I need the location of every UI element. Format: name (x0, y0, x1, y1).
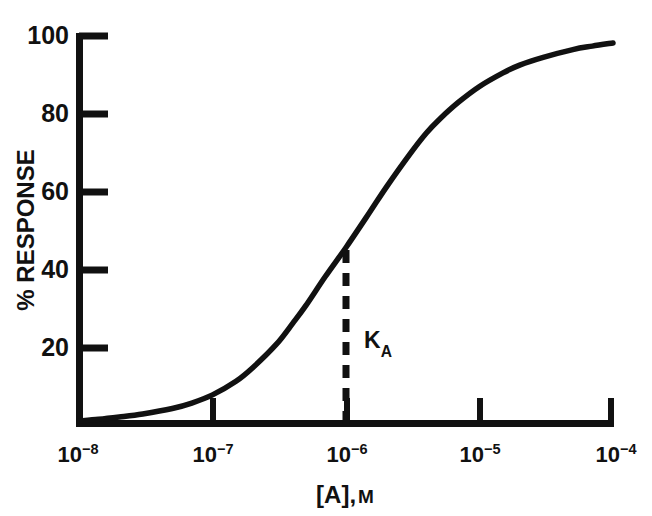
x-tick-label-1e-7-mantissa: 10 (192, 442, 216, 467)
dose-response-chart: KA 100 80 60 40 20 10−8 10−7 10−6 10−5 1… (0, 0, 652, 516)
x-axis-title-bracket-open: [ (316, 481, 324, 508)
x-tick-label-1e-5-exponent: −5 (484, 441, 501, 457)
x-axis-title-bracket-close: ] (341, 481, 349, 508)
x-tick-label-1e-8-exponent: −8 (82, 441, 99, 457)
x-tick-label-1e-6-mantissa: 10 (326, 442, 350, 467)
x-tick-label-1e-8-mantissa: 10 (57, 442, 81, 467)
chart-background (0, 0, 652, 516)
y-tick-label-100: 100 (27, 21, 69, 49)
x-axis-title-species: A (324, 481, 341, 508)
chart-canvas: KA 100 80 60 40 20 10−8 10−7 10−6 10−5 1… (0, 0, 652, 516)
y-tick-label-40: 40 (41, 255, 69, 283)
y-tick-label-60: 60 (41, 177, 69, 205)
x-axis-title-unit: M (358, 486, 374, 507)
x-tick-label-1e-7-exponent: −7 (217, 441, 234, 457)
ka-label-subscript: A (381, 343, 392, 360)
x-axis-title: [A],M (316, 481, 374, 508)
y-tick-label-20: 20 (41, 333, 69, 361)
x-axis-title-comma: , (349, 481, 356, 508)
x-tick-label-1e-4-mantissa: 10 (595, 442, 619, 467)
x-tick-label-1e-6-exponent: −6 (351, 441, 368, 457)
ka-label-base: K (364, 327, 381, 353)
x-tick-label-1e-5-mantissa: 10 (459, 442, 483, 467)
y-tick-label-80: 80 (41, 99, 69, 127)
y-axis-title: % RESPONSE (12, 149, 39, 310)
x-tick-label-1e-4-exponent: −4 (620, 441, 637, 457)
